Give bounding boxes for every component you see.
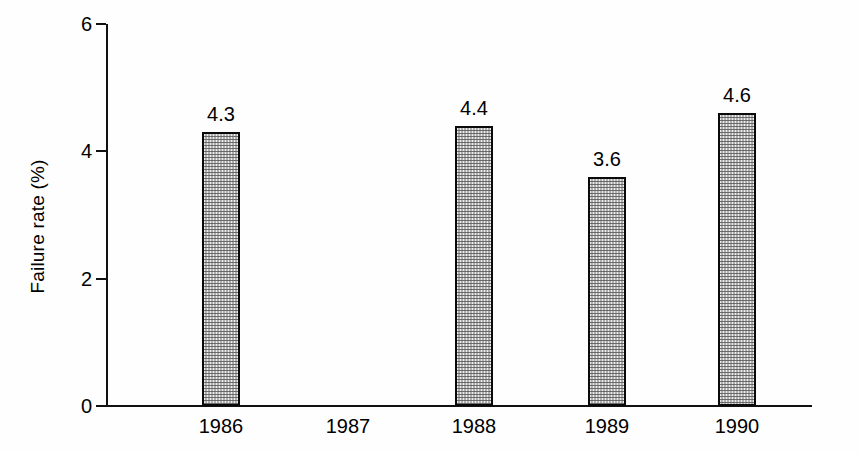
y-tick-label: 6 (64, 14, 92, 34)
y-tick-mark (96, 23, 106, 25)
x-tick-label-1987: 1987 (303, 416, 393, 436)
bar-value-label-1988: 4.4 (434, 98, 514, 118)
y-tick-mark (96, 405, 106, 407)
y-tick-label: 2 (64, 269, 92, 289)
bar-1988 (455, 126, 493, 406)
x-tick-label-1988: 1988 (429, 416, 519, 436)
bar-value-label-1986: 4.3 (181, 104, 261, 124)
x-tick-label-1990: 1990 (692, 416, 782, 436)
x-tick-label-1986: 1986 (176, 416, 266, 436)
bar-chart-figure: Failure rate (%) 0246 4.34.43.64.6 19861… (0, 0, 860, 453)
y-tick-label: 0 (64, 396, 92, 416)
y-tick-mark (96, 278, 106, 280)
x-tick-label-1989: 1989 (562, 416, 652, 436)
bar-value-label-1989: 3.6 (567, 149, 647, 169)
y-axis-line (106, 24, 108, 407)
bar-1986 (202, 132, 240, 406)
y-axis-label: Failure rate (%) (18, 0, 58, 453)
bar-1990 (718, 113, 756, 406)
y-tick-label: 4 (64, 141, 92, 161)
y-axis-label-text: Failure rate (%) (27, 159, 49, 293)
y-tick-mark (96, 150, 106, 152)
bar-1989 (588, 177, 626, 406)
bar-value-label-1990: 4.6 (697, 85, 777, 105)
